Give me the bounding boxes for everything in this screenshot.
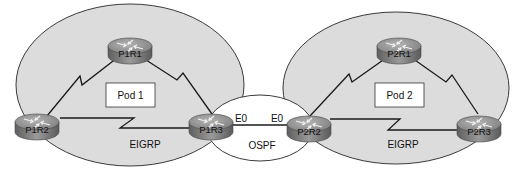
- router-p2r3[interactable]: P2R3: [457, 116, 501, 142]
- router-label: P1R2: [25, 124, 49, 135]
- ospf-protocol-label: OSPF: [248, 140, 275, 151]
- network-diagram: Pod 1 Pod 2 EIGRP EIGRP OSPF E0 E0 P1R1 …: [0, 0, 516, 180]
- pod-2-label-box: Pod 2: [375, 83, 424, 107]
- router-p2r2[interactable]: P2R2: [287, 116, 331, 142]
- pod-1-label-box: Pod 1: [106, 83, 155, 107]
- interface-left-label: E0: [235, 113, 248, 124]
- router-label: P1R3: [199, 124, 223, 135]
- router-label: P2R3: [467, 126, 491, 137]
- router-label: P2R1: [387, 48, 411, 59]
- pod-1-label: Pod 1: [117, 90, 144, 101]
- interface-right-label: E0: [271, 113, 284, 124]
- router-label: P2R2: [297, 126, 321, 137]
- router-label: P1R1: [118, 48, 142, 59]
- router-p1r3[interactable]: P1R3: [189, 114, 233, 140]
- router-p1r1[interactable]: P1R1: [108, 38, 152, 64]
- router-p1r2[interactable]: P1R2: [15, 114, 59, 140]
- pod-2-label: Pod 2: [386, 90, 413, 101]
- pod-2-protocol-label: EIGRP: [387, 139, 418, 150]
- router-p2r1[interactable]: P2R1: [377, 38, 421, 64]
- pod-1-protocol-label: EIGRP: [129, 139, 160, 150]
